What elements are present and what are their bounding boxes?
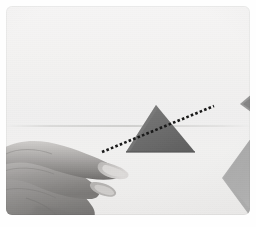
dotted-trajectory-line (92, 94, 222, 164)
photograph (6, 6, 250, 215)
edge-triangle-shape (236, 92, 250, 114)
photo-frame (0, 0, 256, 227)
